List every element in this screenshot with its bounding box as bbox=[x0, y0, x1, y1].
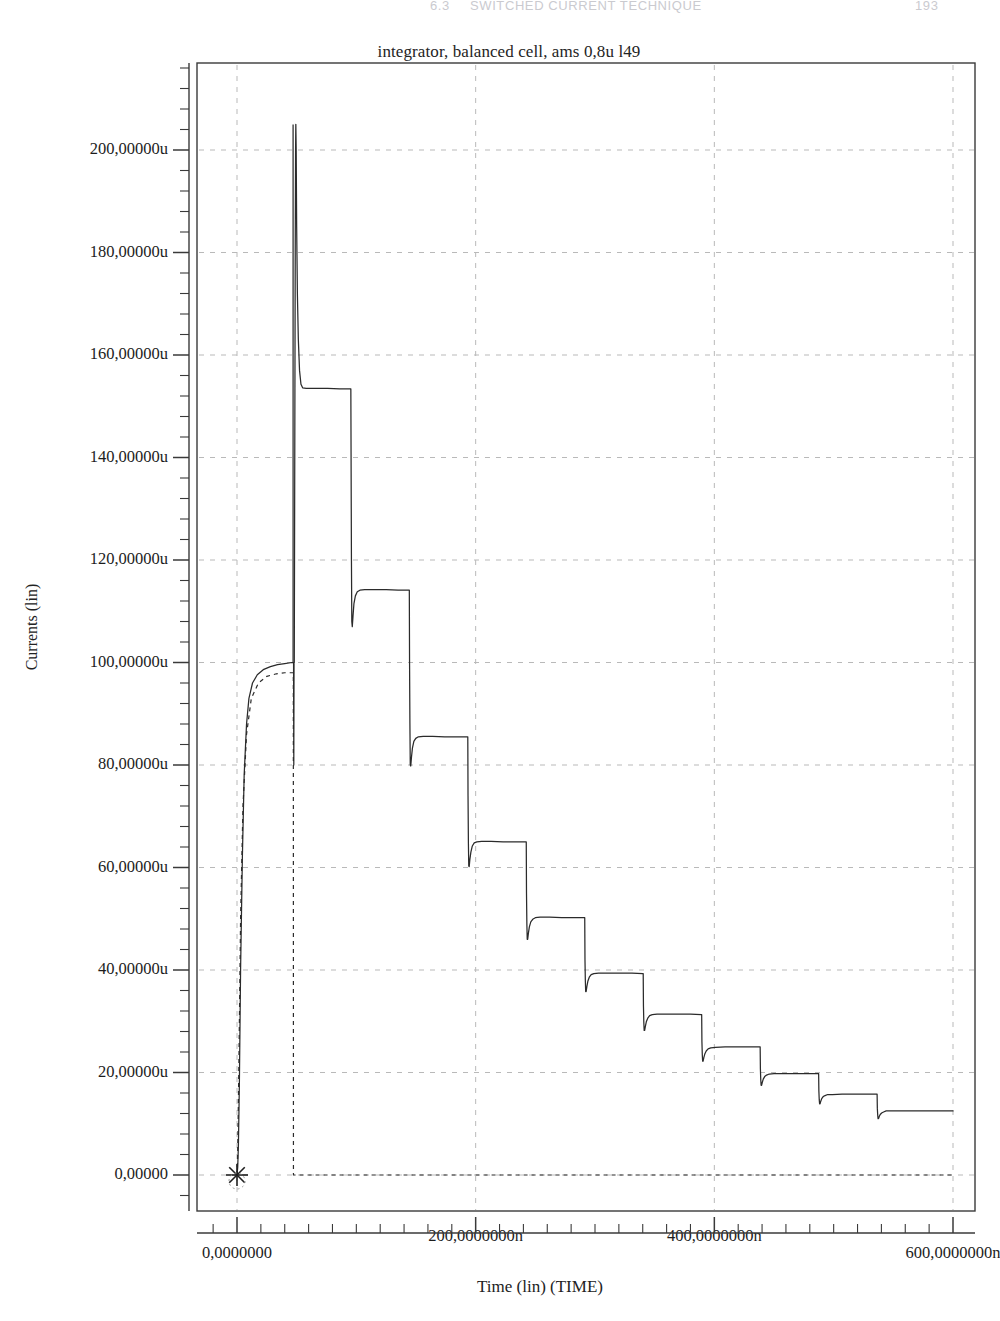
data-series-layer bbox=[237, 124, 953, 1175]
series-current-solid bbox=[237, 124, 953, 1175]
plot-canvas bbox=[0, 0, 1000, 1321]
plot-frame bbox=[197, 63, 975, 1211]
series-reference-dashed bbox=[237, 673, 953, 1175]
grid-layer bbox=[199, 65, 974, 1210]
origin-marker bbox=[226, 1164, 248, 1189]
figure-container: integrator, balanced cell, ams 0,8u l49 … bbox=[0, 0, 1000, 1321]
